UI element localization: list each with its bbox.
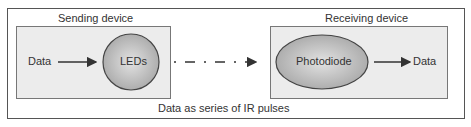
ir-transmission-diagram: Sending device Receiving device Data LED… xyxy=(0,0,471,127)
leds-label: LEDs xyxy=(120,55,147,67)
caption: Data as series of IR pulses xyxy=(158,102,289,114)
photodiode-label: Photodiode xyxy=(296,55,352,67)
receiving-device-label: Receiving device xyxy=(325,12,408,24)
sending-device-label: Sending device xyxy=(58,12,133,24)
output-data-label: Data xyxy=(413,55,436,67)
input-data-label: Data xyxy=(28,55,51,67)
